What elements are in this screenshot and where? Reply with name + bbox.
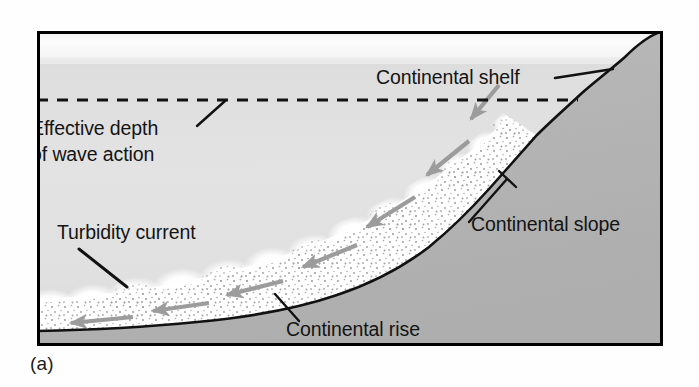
sea-surface-band (37, 31, 663, 59)
diagram-frame: Continental shelf Effective depth of wav… (37, 31, 663, 346)
label-effective-depth-line2: of wave action (37, 143, 154, 165)
continental-margin-diagram: Continental shelf Effective depth of wav… (37, 31, 663, 346)
figure-root: Continental shelf Effective depth of wav… (0, 0, 699, 387)
label-continental-shelf: Continental shelf (376, 66, 520, 88)
label-turbidity-current: Turbidity current (57, 221, 196, 243)
label-effective-depth-line1: Effective depth (37, 117, 158, 139)
figure-caption: (a) (30, 354, 54, 373)
label-continental-rise: Continental rise (286, 318, 420, 340)
sea-surface-haze (37, 57, 663, 64)
label-continental-slope: Continental slope (471, 213, 620, 235)
